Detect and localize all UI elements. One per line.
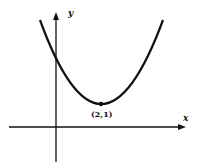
x-axis-label: x (183, 113, 188, 123)
parabola-curve (40, 20, 163, 104)
parabola-plot (0, 0, 203, 166)
y-axis-arrow-icon (53, 12, 59, 20)
vertex-label: (2,1) (91, 109, 113, 119)
vertex-point (99, 102, 103, 106)
y-axis-label: y (68, 8, 73, 18)
x-axis-arrow-icon (178, 124, 186, 130)
